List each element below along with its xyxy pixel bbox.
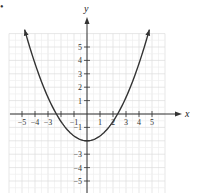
axes	[10, 17, 182, 193]
y-axis-label: y	[83, 3, 89, 14]
coordinate-plane: −5−4−3−11234554321−1−3−4−5 x y	[0, 0, 198, 193]
x-tick-label: −5	[18, 118, 27, 127]
x-tick-label: 3	[124, 118, 128, 127]
y-tick-label: −4	[73, 164, 82, 173]
x-tick-label: 1	[98, 118, 102, 127]
y-tick-label: 2	[78, 83, 82, 92]
y-tick-label: 4	[78, 56, 82, 65]
y-tick-label: 3	[78, 70, 82, 79]
x-axis-label: x	[184, 108, 190, 119]
y-tick-label: −3	[73, 150, 82, 159]
x-tick-label: 4	[137, 118, 141, 127]
y-tick-label: 5	[78, 43, 82, 52]
x-tick-label: −4	[31, 118, 40, 127]
x-tick-label: −3	[44, 118, 53, 127]
x-tick-label: 5	[150, 118, 154, 127]
y-tick-label: 1	[78, 97, 82, 106]
y-tick-label: −1	[73, 123, 82, 132]
y-tick-label: −5	[73, 177, 82, 186]
